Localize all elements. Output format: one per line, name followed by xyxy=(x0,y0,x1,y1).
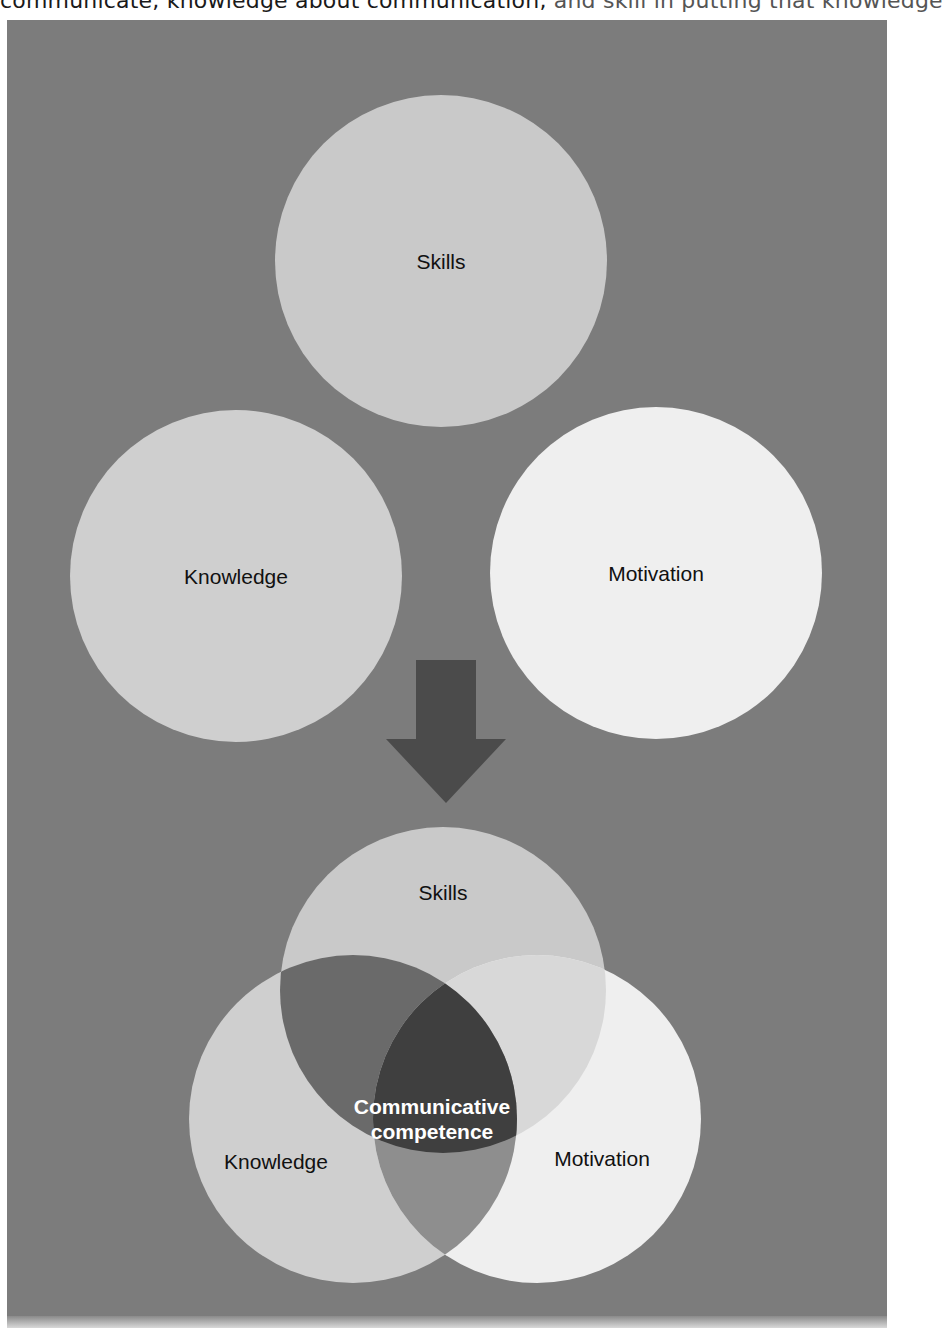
center-label-line2: competence xyxy=(371,1120,494,1143)
knowledge-label: Knowledge xyxy=(184,565,288,588)
center-label-line1: Communicative xyxy=(354,1095,510,1118)
venn-knowledge-label: Knowledge xyxy=(224,1150,328,1173)
venn-skills-label: Skills xyxy=(418,881,467,904)
motivation-label: Motivation xyxy=(608,562,704,585)
down-arrow-icon xyxy=(386,660,506,803)
venn-diagram: Skills Knowledge Motivation Communicativ… xyxy=(189,827,701,1283)
separate-circles: Skills Knowledge Motivation xyxy=(70,95,822,742)
venn-motivation-label: Motivation xyxy=(554,1147,650,1170)
skills-label: Skills xyxy=(416,250,465,273)
